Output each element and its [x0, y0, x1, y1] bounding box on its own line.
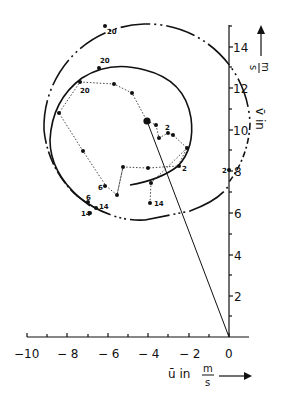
x-tick-labels: −10 − 8 − 6 − 4 − 2 0 [14, 347, 233, 361]
y-tick-labels: 2 4 6 8 10 12 14 [233, 41, 248, 304]
y-tick-label: 8 [234, 165, 242, 179]
x-unit-denominator: s [205, 377, 210, 388]
label-dotted-2: 2 [165, 124, 170, 132]
y-tick-label: 10 [233, 124, 248, 138]
mean-point-marker [143, 117, 150, 124]
label-axis-2: 2 [222, 167, 227, 175]
point-labels: 20 20 20 2 2 2 6 6 14 14 14 [80, 28, 227, 218]
y-tick-label: 2 [234, 290, 242, 304]
y-tick-label: 6 [234, 207, 242, 221]
x-tick-label: − 2 [179, 347, 201, 361]
x-tick-label: −10 [14, 347, 39, 361]
y-tick-label: 4 [234, 249, 242, 263]
label-dotted-20: 20 [80, 87, 90, 95]
x-tick-label: − 4 [138, 347, 160, 361]
x-unit-numerator: m [203, 363, 213, 374]
label-inner-2: 2 [182, 165, 187, 173]
y-axis-title-text: v̄ in [253, 108, 267, 130]
y-axis-title: v̄ in m s [248, 25, 271, 130]
label-inner-20: 20 [100, 57, 110, 65]
y-arrowhead-icon [257, 25, 265, 34]
hodograph-chart: 20 20 20 2 2 2 6 6 14 14 14 −10 − 8 − 6 … [0, 0, 283, 397]
x-axis-title: ū in m s [168, 363, 252, 388]
x-tick-label: − 6 [98, 347, 120, 361]
data-markers [57, 24, 231, 215]
x-axis-title-text: ū in [168, 367, 190, 381]
y-tick-label: 12 [233, 82, 248, 96]
label-outer-20: 20 [107, 28, 117, 36]
x-arrowhead-icon [244, 372, 252, 380]
observed-dotted-hodograph [59, 82, 187, 203]
label-outer-14: 14 [81, 210, 91, 218]
mean-wind-vector [147, 121, 229, 337]
x-axis [27, 333, 249, 337]
x-tick-label: 0 [225, 347, 233, 361]
x-tick-label: − 8 [57, 347, 79, 361]
y-tick-label: 14 [233, 41, 248, 55]
label-dotted-14: 14 [154, 200, 164, 208]
y-unit-numerator: m [260, 62, 271, 72]
label-inner-14: 14 [99, 203, 109, 211]
label-inner-6: 6 [86, 194, 91, 202]
y-unit-denominator: s [248, 65, 259, 70]
label-dotted-6: 6 [98, 184, 103, 192]
chart-svg: 20 20 20 2 2 2 6 6 14 14 14 −10 − 8 − 6 … [0, 0, 283, 397]
inner-hodograph-curve [50, 66, 192, 206]
